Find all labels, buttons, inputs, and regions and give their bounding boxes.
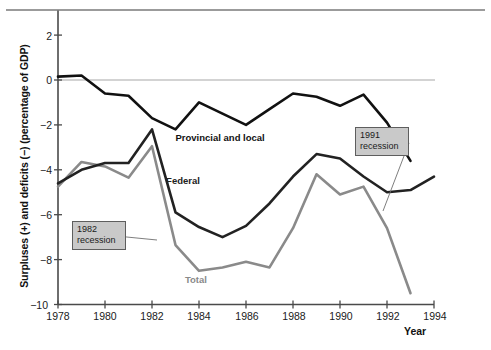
plot-area	[0, 0, 491, 350]
annotation-1982-recession: 1982 recession	[72, 221, 126, 250]
chart-figure: Surpluses (+) and deficits (−) (percenta…	[0, 0, 491, 350]
annotation-1991-line1: 1991	[360, 130, 404, 141]
series-label-federal: Federal	[166, 175, 200, 186]
series-label-total: Total	[185, 274, 207, 285]
annotation-1982-line2: recession	[77, 235, 121, 246]
series-label-provincial-and-local: Provincial and local	[176, 132, 265, 143]
annotation-1991-line2: recession	[360, 141, 404, 152]
annotation-1982-line1: 1982	[77, 224, 121, 235]
annotation-1991-recession: 1991 recession	[355, 127, 409, 156]
